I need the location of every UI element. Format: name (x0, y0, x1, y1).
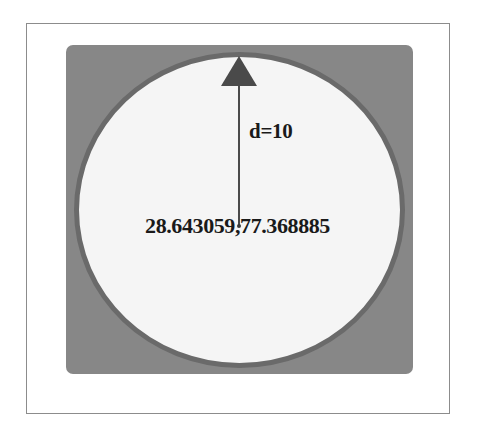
radius-arrow-shaft (238, 81, 240, 227)
center-coordinate-label: 28.643059,77.368885 (27, 213, 448, 239)
outer-frame: d=10 28.643059,77.368885 (26, 23, 450, 414)
distance-label: d=10 (249, 119, 292, 144)
diagram-canvas: d=10 28.643059,77.368885 (0, 0, 477, 438)
